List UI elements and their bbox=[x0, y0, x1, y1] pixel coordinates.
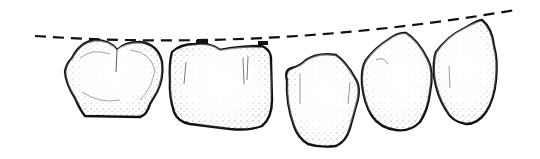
tooth-5 bbox=[434, 20, 497, 124]
tooth-2 bbox=[170, 40, 272, 130]
tooth-4 bbox=[362, 33, 432, 130]
tooth-1 bbox=[65, 40, 162, 117]
tooth-3 bbox=[286, 54, 359, 146]
teeth-illustration bbox=[0, 0, 540, 159]
dashed-reference-line bbox=[35, 10, 515, 40]
